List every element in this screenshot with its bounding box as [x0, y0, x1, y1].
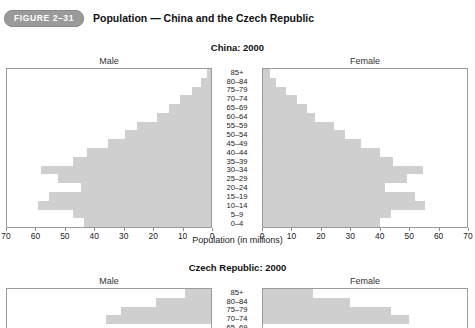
pyramid-row	[263, 113, 467, 122]
pyramid-row	[7, 148, 211, 157]
pyramid-bar-female	[263, 157, 393, 166]
pyramid-bar-female	[263, 87, 286, 96]
pyramid-bar-female	[263, 210, 391, 219]
pyramid-row	[7, 289, 211, 298]
male-label-czech: Male	[6, 274, 212, 288]
chart-china-title: China: 2000	[0, 42, 475, 54]
pyramid-row	[263, 315, 467, 324]
pyramid-row	[7, 87, 211, 96]
chart-czech: Czech Republic: 2000 Male Female 85+80–8…	[0, 262, 475, 328]
pyramid-row	[263, 157, 467, 166]
age-group-label: 85+	[212, 288, 262, 297]
figure-caption-text: Population — China and the Czech Republi…	[93, 12, 314, 24]
pyramid-row	[263, 210, 467, 219]
china-axis-caption: Population (in millions)	[0, 235, 475, 245]
pyramid-row	[263, 174, 467, 183]
pyramid-bar-female	[263, 113, 315, 122]
pyramid-row	[7, 201, 211, 210]
pyramid-bar-male	[156, 298, 211, 307]
pyramid-row	[263, 95, 467, 104]
chart-china-plot: 85+80–8475–7970–7465–6960–6455–5950–5445…	[0, 68, 475, 228]
pyramid-bar-male	[121, 307, 211, 316]
pyramid-bar-male	[73, 210, 211, 219]
pyramid-bar-male	[137, 122, 211, 131]
age-group-label: 0–4	[212, 219, 262, 228]
pyramid-bar-male	[125, 130, 211, 139]
pyramid-row	[7, 113, 211, 122]
pyramid-row	[263, 78, 467, 87]
pyramid-bar-female	[263, 192, 415, 201]
pyramid-row	[263, 324, 467, 328]
pyramid-bar-female	[263, 307, 391, 316]
pyramid-bar-female	[263, 201, 425, 210]
chart-czech-title: Czech Republic: 2000	[0, 262, 475, 274]
figure-caption-row: FIGURE 2–31 Population — China and the C…	[0, 8, 475, 28]
pyramid-bar-female	[263, 289, 313, 298]
pyramid-row	[263, 130, 467, 139]
age-group-label: 60–64	[212, 112, 262, 121]
pyramid-row	[263, 139, 467, 148]
age-group-label: 40–44	[212, 148, 262, 157]
pyramid-row	[7, 192, 211, 201]
age-group-label: 65–69	[212, 324, 262, 328]
chart-czech-sex-labels: Male Female	[0, 274, 475, 288]
czech-female-panel	[262, 288, 468, 328]
china-age-labels: 85+80–8475–7970–7465–6960–6455–5950–5445…	[212, 68, 262, 228]
pyramid-bar-female	[263, 69, 270, 78]
pyramid-row	[7, 166, 211, 175]
pyramid-bar-male	[81, 183, 211, 192]
pyramid-row	[7, 210, 211, 219]
pyramid-row	[263, 104, 467, 113]
figure-number-badge: FIGURE 2–31	[4, 10, 84, 27]
pyramid-row	[7, 315, 211, 324]
pyramid-bar-male	[106, 315, 211, 324]
pyramid-bar-male	[41, 166, 211, 175]
pyramid-row	[7, 307, 211, 316]
pyramid-row	[7, 139, 211, 148]
pyramid-row	[7, 183, 211, 192]
pyramid-bar-male	[84, 218, 211, 227]
pyramid-bar-female	[263, 95, 297, 104]
female-label-czech: Female	[262, 274, 468, 288]
pyramid-bar-male	[201, 78, 211, 87]
pyramid-row	[7, 218, 211, 227]
female-label: Female	[262, 54, 468, 68]
age-group-label: 50–54	[212, 130, 262, 139]
pyramid-row	[7, 174, 211, 183]
pyramid-row	[263, 87, 467, 96]
pyramid-bar-female	[263, 183, 385, 192]
pyramid-bar-male	[157, 113, 211, 122]
pyramid-row	[7, 95, 211, 104]
pyramid-bar-male	[38, 201, 211, 210]
pyramid-bar-male	[58, 174, 211, 183]
male-label: Male	[6, 54, 212, 68]
china-female-panel	[262, 68, 468, 228]
age-group-label: 10–14	[212, 201, 262, 210]
pyramid-bar-female	[263, 122, 334, 131]
pyramid-row	[263, 69, 467, 78]
pyramid-bar-male	[192, 87, 211, 96]
pyramid-bar-male	[169, 104, 211, 113]
pyramid-bar-female	[263, 148, 380, 157]
pyramid-bar-female	[263, 166, 423, 175]
pyramid-bar-male	[49, 192, 211, 201]
pyramid-row	[7, 78, 211, 87]
age-group-label: 5–9	[212, 210, 262, 219]
age-group-label: 85+	[212, 68, 262, 77]
pyramid-row	[263, 148, 467, 157]
pyramid-bar-male	[108, 139, 211, 148]
pyramid-row	[7, 130, 211, 139]
pyramid-row	[263, 166, 467, 175]
chart-china: China: 2000 Male Female 85+80–8475–7970–…	[0, 42, 475, 244]
pyramid-row	[7, 122, 211, 131]
china-male-panel	[6, 68, 212, 228]
pyramid-row	[7, 298, 211, 307]
pyramid-bar-female	[263, 139, 361, 148]
pyramid-bar-female	[263, 174, 407, 183]
pyramid-row	[7, 69, 211, 78]
czech-age-labels: 85+80–8475–7970–7465–6960–6455–5950–5445…	[212, 288, 262, 328]
pyramid-row	[7, 157, 211, 166]
pyramid-row	[7, 104, 211, 113]
pyramid-row	[263, 201, 467, 210]
pyramid-bar-male	[207, 69, 211, 78]
